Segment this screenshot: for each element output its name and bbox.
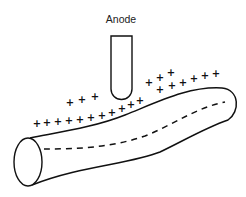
plus-charge-icon: + <box>78 94 86 105</box>
plus-charge-icon: + <box>136 95 144 106</box>
plus-charge-icon: + <box>43 117 51 128</box>
plus-charge-icon: + <box>87 112 95 123</box>
plus-charge-icon: + <box>127 99 135 110</box>
plus-charge-icon: + <box>145 77 153 88</box>
plus-charge-icon: + <box>98 110 106 121</box>
plus-charge-icon: + <box>76 114 84 125</box>
plus-charge-icon: + <box>212 68 220 79</box>
plus-charge-icon: + <box>91 91 99 102</box>
plus-charge-icon: + <box>190 73 198 84</box>
plus-charge-icon: + <box>156 72 164 83</box>
anode-label: Anode <box>106 13 137 25</box>
plus-charge-icon: + <box>167 67 175 78</box>
fiber-anode-diagram: Anode +++++++++++++++++++++++ <box>0 0 246 197</box>
plus-charge-icon: + <box>108 107 116 118</box>
plus-charge-icon: + <box>118 103 126 114</box>
plus-charge-icon: + <box>33 118 41 129</box>
plus-charge-icon: + <box>168 80 176 91</box>
anode-electrode <box>111 36 132 100</box>
fiber-end-ellipse <box>14 138 42 186</box>
plus-charge-icon: + <box>66 97 74 108</box>
plus-charge-icon: + <box>201 70 209 81</box>
plus-charge-icon: + <box>54 116 62 127</box>
plus-charge-icon: + <box>156 84 164 95</box>
plus-charge-icon: + <box>65 115 73 126</box>
plus-charge-icon: + <box>179 77 187 88</box>
